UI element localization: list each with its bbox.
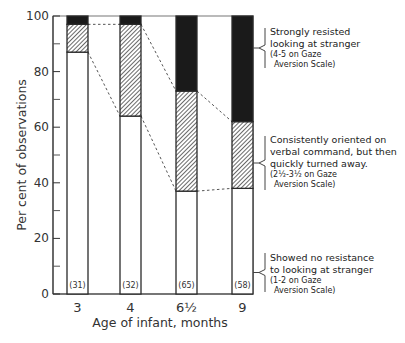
bar-segment-no-resistance [176, 191, 197, 294]
legend-line: looking at stranger [270, 38, 360, 49]
bar-segment-turned-away [232, 122, 253, 189]
legend-line: Showed no resistance [270, 252, 374, 263]
legend-line: verbal command, but then [270, 146, 397, 157]
x-axis-title: Age of infant, months [92, 315, 227, 330]
legend-line: Aversion Scale) [270, 286, 374, 296]
connector-line [88, 52, 120, 116]
legend-line: Aversion Scale) [270, 60, 360, 70]
y-ticks: 020406080100 [26, 9, 60, 301]
y-tick-label: 60 [34, 120, 49, 134]
legend-line: Aversion Scale) [270, 180, 397, 190]
bar-segment-turned-away [176, 91, 197, 191]
bar-segment-strongly-resisted [120, 16, 141, 24]
bar-segment-strongly-resisted [232, 16, 253, 122]
bar-4 [120, 16, 141, 294]
legend-bracket [259, 253, 265, 292]
bar-segment-strongly-resisted [67, 16, 88, 24]
y-axis-title: Per cent of observations [14, 79, 29, 231]
bar-segment-no-resistance [67, 52, 88, 294]
connector-line [197, 188, 232, 191]
bar-segment-no-resistance [120, 116, 141, 294]
sample-size-label: (31) [69, 281, 85, 290]
sample-size-label: (65) [178, 281, 194, 290]
legend-line: (4-5 on Gaze [270, 50, 360, 60]
y-tick-label: 20 [34, 231, 49, 245]
connector-line [141, 24, 176, 91]
legend-line: (1-2 on Gaze [270, 276, 374, 286]
sample-size-label: (58) [234, 281, 250, 290]
legend-turned-away: Consistently oriented on verbal command,… [270, 134, 397, 190]
bar-segment-turned-away [120, 24, 141, 116]
bars [67, 16, 253, 294]
legend-strongly-resisted: Strongly resisted looking at stranger (4… [270, 26, 360, 70]
legend-brackets [253, 28, 265, 292]
sample-size-labels: (31)(32)(65)(58) [69, 281, 250, 290]
connector-line [141, 116, 176, 191]
bar-3 [67, 16, 88, 294]
y-tick-label: 100 [26, 9, 49, 23]
sample-size-label: (32) [122, 281, 138, 290]
x-tick-label: 4 [126, 300, 134, 315]
connector-line [197, 91, 232, 122]
legend-line: Strongly resisted [270, 26, 350, 37]
bar-segment-turned-away [67, 24, 88, 52]
connector-lines [88, 24, 232, 191]
y-tick-label: 0 [41, 287, 49, 301]
legend-line: to looking at stranger [270, 264, 373, 275]
y-tick-label: 80 [34, 65, 49, 79]
x-tick-label: 9 [238, 300, 246, 315]
legend-bracket [259, 136, 265, 190]
legend-line: (2½-3½ on Gaze [270, 170, 397, 180]
legend-no-resistance: Showed no resistance to looking at stran… [270, 252, 374, 296]
legend-line: quickly turned away. [270, 158, 368, 169]
y-tick-label: 40 [34, 176, 49, 190]
legend-line: Consistently oriented on [270, 134, 386, 145]
bar-9 [232, 16, 253, 294]
x-tick-label: 6½ [176, 300, 197, 315]
legend-bracket [259, 28, 265, 68]
x-ticks: 346½9 [73, 300, 246, 315]
bar-6½ [176, 16, 197, 294]
bar-segment-strongly-resisted [176, 16, 197, 91]
bar-segment-no-resistance [232, 188, 253, 294]
x-tick-label: 3 [73, 300, 81, 315]
